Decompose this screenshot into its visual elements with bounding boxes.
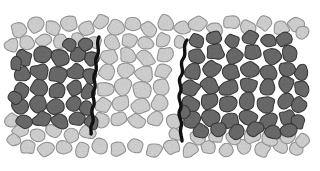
dark-grain bbox=[211, 123, 226, 137]
dark-grain bbox=[206, 31, 221, 44]
light-grain bbox=[92, 138, 107, 154]
light-grain bbox=[30, 129, 45, 142]
light-grain bbox=[157, 48, 173, 62]
dark-grain bbox=[69, 112, 85, 125]
light-grain bbox=[133, 82, 151, 99]
light-grain bbox=[122, 34, 137, 47]
dark-grain bbox=[11, 57, 21, 71]
light-grain bbox=[156, 33, 170, 47]
light-grain bbox=[112, 96, 129, 112]
light-grain bbox=[98, 83, 114, 96]
light-grain bbox=[224, 16, 240, 29]
dark-grain bbox=[222, 64, 239, 79]
light-grain bbox=[76, 142, 89, 158]
light-grain bbox=[64, 128, 79, 143]
dark-grain bbox=[257, 97, 275, 113]
light-grain bbox=[125, 17, 141, 30]
dark-grain bbox=[239, 92, 254, 110]
dark-grain bbox=[49, 83, 65, 98]
dark-grain bbox=[245, 45, 261, 59]
dark-grain bbox=[264, 125, 281, 139]
light-grain bbox=[153, 79, 169, 96]
dark-grain bbox=[30, 95, 47, 112]
dark-grain bbox=[282, 45, 296, 62]
grain-structure-canvas bbox=[0, 0, 320, 171]
light-grain bbox=[128, 139, 144, 153]
light-grain bbox=[60, 16, 77, 31]
dark-grain bbox=[34, 46, 52, 62]
grain-microstructure-figure bbox=[0, 0, 320, 171]
light-grain bbox=[20, 36, 35, 50]
light-grain bbox=[21, 140, 36, 153]
dark-grain bbox=[240, 78, 257, 92]
